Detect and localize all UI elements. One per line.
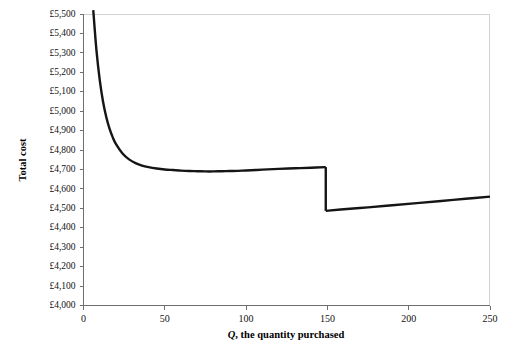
- y-axis-tick-label: £4,100: [49, 281, 75, 291]
- y-axis-tick-label: £4,600: [49, 184, 75, 194]
- chart-canvas: £4,000£4,100£4,200£4,300£4,400£4,500£4,6…: [0, 0, 514, 355]
- y-axis-tick-label: £4,200: [49, 261, 75, 271]
- y-axis-tick-label: £4,800: [49, 145, 75, 155]
- y-axis-tick-label: £5,300: [49, 48, 75, 58]
- x-axis-tick-label: 100: [239, 313, 254, 324]
- y-axis-tick-label: £5,500: [49, 9, 75, 19]
- y-axis-tick-label: £5,400: [49, 28, 75, 38]
- y-axis-tick-label: £5,100: [49, 86, 75, 96]
- y-axis-tick-label: £4,500: [49, 203, 75, 213]
- x-axis-tick-label: 50: [160, 313, 170, 324]
- y-axis-tick-label: £4,700: [49, 164, 75, 174]
- y-axis-tick-label: £4,900: [49, 125, 75, 135]
- x-axis-tick-label: 0: [81, 313, 86, 324]
- y-axis-tick-label: £4,400: [49, 222, 75, 232]
- x-axis-tick-label: 200: [401, 313, 416, 324]
- x-axis-tick-label: 150: [320, 313, 335, 324]
- y-axis-title: Total cost: [17, 138, 28, 182]
- chart-background: [0, 0, 514, 355]
- y-axis-tick-label: £4,300: [49, 242, 75, 252]
- x-axis-title: Q, the quantity purchased: [228, 329, 345, 340]
- y-axis-tick-label: £4,000: [49, 300, 75, 310]
- y-axis-tick-label: £5,000: [49, 106, 75, 116]
- x-axis-tick-label: 250: [483, 313, 498, 324]
- total-cost-chart: £4,000£4,100£4,200£4,300£4,400£4,500£4,6…: [0, 0, 514, 355]
- x-axis-title-text: , the quantity purchased: [235, 329, 344, 340]
- y-axis-tick-label: £5,200: [49, 67, 75, 77]
